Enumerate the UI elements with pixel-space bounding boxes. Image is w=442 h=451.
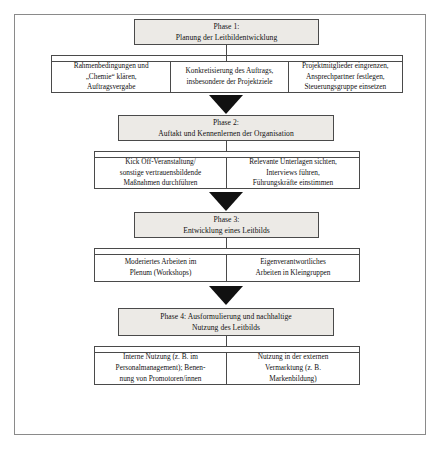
task-3-2-line-1: Eigenverantwortliches bbox=[256, 257, 331, 268]
arrow-phase-1-to-phase-2-icon bbox=[209, 95, 243, 114]
task-1-3-line-3: Steuerungsgruppe einsetzen bbox=[302, 82, 389, 93]
task-3-2: Eigenverantwortliches Arbeiten in Kleing… bbox=[227, 255, 359, 281]
connector-phase-2-bus bbox=[94, 151, 359, 152]
task-4-1-line-2: Personalmanagement); Benen- bbox=[116, 363, 206, 374]
connector-phase-3-stem bbox=[226, 238, 227, 248]
phase-3-heading-line-2: Entwicklung eines Leitbilds bbox=[183, 225, 270, 236]
task-2-2: Relevante Unterlagen sichten, Interviews… bbox=[227, 158, 359, 188]
task-4-1: Interne Nutzung (z. B. im Personalmanage… bbox=[95, 353, 227, 384]
diagram-frame: Phase 1: Planung der Leitbildentwicklung… bbox=[14, 14, 426, 435]
task-1-2-line-1: Konkretisierung des Auftrags, bbox=[186, 66, 274, 77]
task-1-3: Projektmitglieder eingrenzen, Ansprechpa… bbox=[289, 62, 402, 92]
task-2-2-line-1: Relevante Unterlagen sichten, bbox=[249, 157, 337, 168]
task-1-2-line-2: insbesondere der Projektziele bbox=[186, 77, 274, 88]
connector-phase-4-bus bbox=[94, 346, 359, 347]
arrow-phase-3-to-phase-4-icon bbox=[209, 286, 243, 305]
phase-1-heading-box: Phase 1: Planung der Leitbildentwicklung bbox=[134, 19, 319, 45]
phase-2-heading-line-2: Auftakt und Kennenlernen der Organisatio… bbox=[158, 128, 294, 139]
task-2-1-line-1: Kick Off-Veranstaltung/ bbox=[120, 157, 201, 168]
phase-1-task-row: Rahmenbedingungen und „Chemie“ klären, A… bbox=[51, 61, 403, 93]
task-1-1-line-1: Rahmenbedingungen und bbox=[74, 61, 149, 72]
task-1-3-line-1: Projektmitglieder eingrenzen, bbox=[302, 61, 389, 72]
phase-4-heading-line-2: Nutzung des Leitbilds bbox=[160, 322, 292, 333]
phase-3-task-row: Moderiertes Arbeiten im Plenum (Workshop… bbox=[94, 254, 360, 282]
task-2-1-line-2: sonstige vertrauensbildende bbox=[120, 168, 201, 179]
task-1-1-line-2: „Chemie“ klären, bbox=[74, 72, 149, 83]
task-3-1-line-2: Plenum (Workshops) bbox=[125, 268, 197, 279]
task-3-1-line-1: Moderiertes Arbeiten im bbox=[125, 257, 197, 268]
phase-4-heading-line-1: Phase 4: Ausformulierung und nachhaltige bbox=[160, 311, 292, 322]
task-4-2-line-3: Markenbildung) bbox=[258, 374, 329, 385]
task-4-1-line-3: nung von Promotoren/innen bbox=[116, 374, 206, 385]
task-4-2: Nutzung in der externen Vermarktung (z. … bbox=[227, 353, 359, 384]
task-1-2: Konkretisierung des Auftrags, insbesonde… bbox=[171, 62, 288, 92]
task-1-1: Rahmenbedingungen und „Chemie“ klären, A… bbox=[52, 62, 171, 92]
phase-4-heading-box: Phase 4: Ausformulierung und nachhaltige… bbox=[118, 308, 334, 336]
task-1-3-line-2: Ansprechpartner festlegen, bbox=[302, 72, 389, 83]
connector-phase-4-stem bbox=[226, 336, 227, 346]
task-4-2-line-1: Nutzung in der externen bbox=[258, 352, 329, 363]
connector-phase-1-stem bbox=[226, 45, 227, 55]
task-1-1-line-3: Auftragsvergabe bbox=[74, 82, 149, 93]
phase-2-heading-box: Phase 2: Auftakt und Kennenlernen der Or… bbox=[118, 115, 334, 141]
task-2-2-line-3: Führungskräfte einstimmen bbox=[249, 178, 337, 189]
arrow-phase-2-to-phase-3-icon bbox=[209, 192, 243, 211]
task-2-1-line-3: Maßnahmen durchführen bbox=[120, 178, 201, 189]
connector-phase-3-bus bbox=[94, 248, 359, 249]
task-3-2-line-2: Arbeiten in Kleingruppen bbox=[256, 268, 331, 279]
connector-phase-2-stem bbox=[226, 141, 227, 151]
task-4-2-line-2: Vermarktung (z. B. bbox=[258, 363, 329, 374]
phase-3-heading-line-1: Phase 3: bbox=[183, 214, 270, 225]
phase-2-task-row: Kick Off-Veranstaltung/ sonstige vertrau… bbox=[94, 157, 360, 189]
task-2-1: Kick Off-Veranstaltung/ sonstige vertrau… bbox=[95, 158, 227, 188]
task-2-2-line-2: Interviews führen, bbox=[249, 168, 337, 179]
phase-1-heading-line-2: Planung der Leitbildentwicklung bbox=[176, 32, 278, 43]
phase-2-heading-line-1: Phase 2: bbox=[158, 117, 294, 128]
task-4-1-line-1: Interne Nutzung (z. B. im bbox=[116, 352, 206, 363]
phase-3-heading-box: Phase 3: Entwicklung eines Leitbilds bbox=[134, 212, 319, 238]
phase-4-task-row: Interne Nutzung (z. B. im Personalmanage… bbox=[94, 352, 360, 385]
task-3-1: Moderiertes Arbeiten im Plenum (Workshop… bbox=[95, 255, 227, 281]
phase-1-heading-line-1: Phase 1: bbox=[176, 21, 278, 32]
